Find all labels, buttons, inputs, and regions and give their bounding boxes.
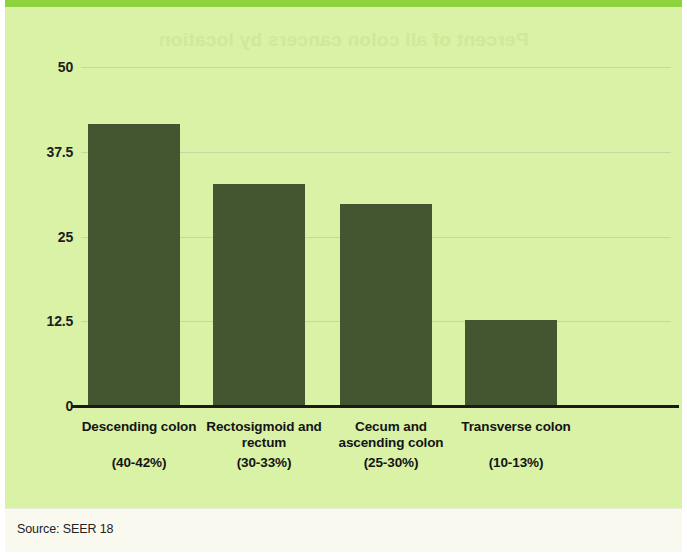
gridline	[81, 67, 671, 68]
x-axis-label-group: Transverse colon(10-13%)	[436, 419, 596, 470]
bar[interactable]	[88, 124, 180, 406]
bleed-through-ghost-text: Percent of all colon cancers by location	[5, 29, 682, 51]
chart-panel: Percent of all colon cancers by location…	[5, 7, 682, 508]
y-axis-tick-label: 50	[15, 59, 73, 75]
chart-figure: Percent of all colon cancers by location…	[0, 0, 687, 557]
x-axis-category-labels: Descending colon(40-42%)Rectosigmoid and…	[10, 419, 682, 505]
bar[interactable]	[213, 184, 305, 406]
y-axis-tick-label: 12.5	[15, 313, 73, 329]
y-axis-tick-labels: 5037.52512.50	[13, 67, 73, 406]
x-axis-category-range: (10-13%)	[436, 455, 596, 470]
bar[interactable]	[340, 204, 432, 406]
y-axis-tick-label: 0	[15, 398, 73, 414]
y-axis-tick-label: 25	[15, 229, 73, 245]
bar[interactable]	[465, 320, 557, 406]
source-label: Source: SEER 18	[17, 522, 113, 536]
x-axis-category-name: Transverse colon	[436, 419, 596, 435]
source-footer: Source: SEER 18	[5, 508, 682, 552]
top-accent-stripe	[5, 0, 682, 7]
y-axis-tick-label: 37.5	[15, 144, 73, 160]
x-axis-baseline	[71, 405, 679, 408]
plot-area	[81, 67, 671, 406]
